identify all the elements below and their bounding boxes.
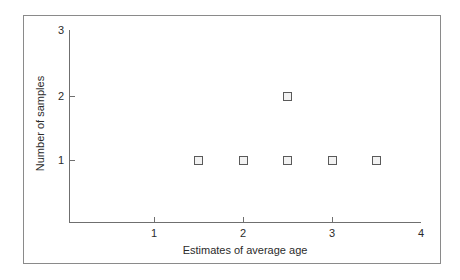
- data-point: [328, 156, 337, 165]
- plot-area: 1 2 3 1 2 3 4 Estimates of average age N…: [0, 0, 460, 280]
- x-tick-1: [154, 217, 155, 223]
- y-tick-label-1: 1: [44, 155, 64, 166]
- y-tick-label-2: 2: [44, 91, 64, 102]
- x-tick-label-1: 1: [144, 228, 164, 239]
- data-point: [283, 92, 292, 101]
- data-point: [239, 156, 248, 165]
- x-tick-2: [243, 217, 244, 223]
- data-point: [283, 156, 292, 165]
- x-tick-label-4: 4: [411, 228, 431, 239]
- y-axis-title: Number of samples: [35, 44, 46, 204]
- data-point: [194, 156, 203, 165]
- figure: 1 2 3 1 2 3 4 Estimates of average age N…: [0, 0, 460, 280]
- x-tick-label-3: 3: [322, 228, 342, 239]
- y-tick-1: [69, 160, 75, 161]
- x-axis-title: Estimates of average age: [69, 245, 421, 256]
- x-tick-3: [332, 217, 333, 223]
- y-axis-line: [69, 30, 70, 223]
- x-tick-label-2: 2: [233, 228, 253, 239]
- y-tick-label-3: 3: [44, 25, 64, 36]
- y-tick-2: [69, 96, 75, 97]
- data-point: [372, 156, 381, 165]
- x-axis-line: [69, 222, 421, 223]
